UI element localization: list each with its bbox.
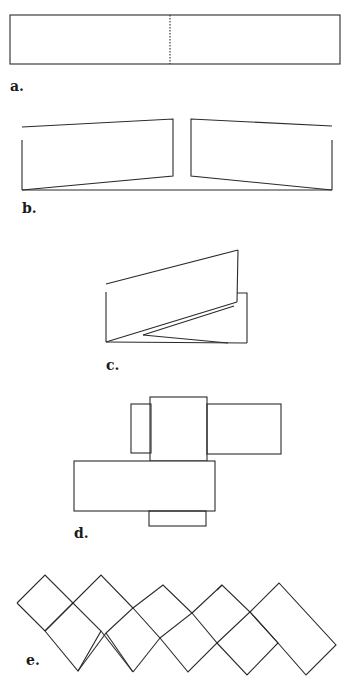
square xyxy=(217,612,278,675)
edge xyxy=(217,585,222,590)
square xyxy=(250,583,336,675)
inner-slant xyxy=(143,306,234,335)
edge xyxy=(250,612,278,643)
front-slant xyxy=(106,302,237,342)
figure-b xyxy=(22,119,332,190)
figure-a-label: a. xyxy=(10,78,24,94)
center-rect xyxy=(150,397,207,461)
back-panel xyxy=(237,293,247,343)
figure-d-label: d. xyxy=(74,525,89,541)
square xyxy=(160,613,217,672)
bottom-rect xyxy=(74,461,215,511)
figure-d xyxy=(74,397,281,526)
square xyxy=(17,575,73,631)
left-tab xyxy=(131,404,151,453)
base-line xyxy=(106,342,247,343)
right-rect xyxy=(207,404,281,454)
figure-e xyxy=(17,575,336,675)
right-panel xyxy=(191,119,332,190)
fold-diagram-canvas xyxy=(0,0,349,687)
inner-bottom xyxy=(143,335,228,343)
edge xyxy=(106,633,133,672)
front-right-edge xyxy=(237,250,238,302)
figure-b-label: b. xyxy=(22,200,37,216)
strip-rect xyxy=(10,15,340,64)
figure-a xyxy=(10,15,340,64)
square xyxy=(45,603,101,671)
figure-c-label: c. xyxy=(106,357,119,373)
square xyxy=(192,585,250,643)
edge xyxy=(133,638,160,672)
left-panel xyxy=(22,119,173,190)
bottom-tab xyxy=(149,511,206,526)
figure-e-label: e. xyxy=(26,652,40,668)
square xyxy=(73,575,133,633)
top-edge xyxy=(106,250,238,284)
edge xyxy=(78,633,106,671)
figure-c xyxy=(106,250,247,343)
square xyxy=(133,585,192,638)
